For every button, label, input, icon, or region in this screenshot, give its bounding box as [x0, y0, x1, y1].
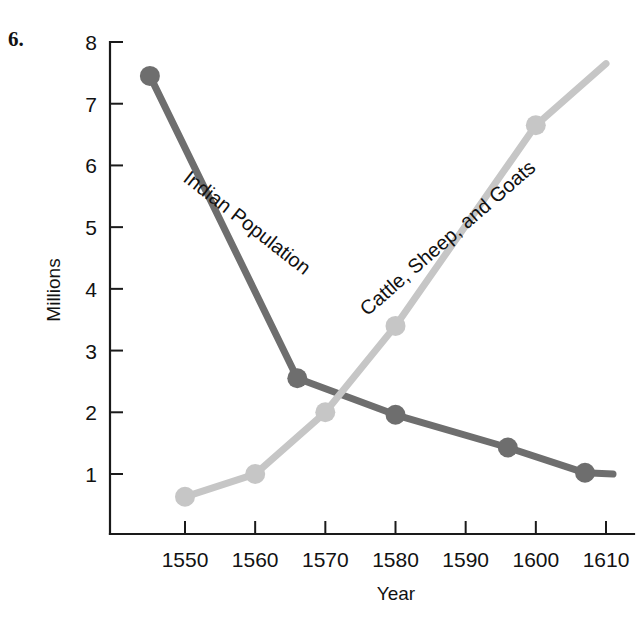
y-axis-tick-labels: 12345678 — [85, 31, 97, 486]
y-tick-label: 7 — [85, 93, 97, 116]
y-tick-label: 4 — [85, 278, 97, 301]
x-axis-title: Year — [377, 583, 416, 604]
data-point-marker — [140, 66, 160, 86]
x-tick-label: 1550 — [162, 548, 209, 571]
line-chart: 12345678 1550156015701580159016001610 Mi… — [0, 0, 644, 619]
y-axis-ticks — [110, 42, 123, 474]
y-tick-label: 3 — [85, 340, 97, 363]
data-point-marker — [287, 368, 307, 388]
data-point-marker — [175, 487, 195, 507]
figure-container: 6. 12345678 1550156015701580159016001610… — [0, 0, 644, 619]
data-point-marker — [575, 463, 595, 483]
y-tick-label: 5 — [85, 216, 97, 239]
y-tick-label: 1 — [85, 463, 97, 486]
data-point-marker — [245, 464, 265, 484]
y-axis-title: Millions — [43, 258, 64, 321]
series-label-cattle-sheep-goats: Cattle, Sheep, and Goats — [355, 156, 539, 320]
y-tick-label: 8 — [85, 31, 97, 54]
series-label-indian-population: Indian Population — [180, 166, 315, 279]
x-tick-label: 1580 — [372, 548, 419, 571]
x-axis-tick-labels: 1550156015701580159016001610 — [162, 548, 630, 571]
data-point-marker — [526, 115, 546, 135]
data-point-marker — [386, 316, 406, 336]
x-tick-label: 1590 — [442, 548, 489, 571]
data-point-marker — [315, 402, 335, 422]
series-line-0 — [150, 76, 613, 474]
x-axis-ticks — [185, 521, 606, 534]
data-point-marker — [498, 438, 518, 458]
x-tick-label: 1560 — [232, 548, 279, 571]
y-tick-label: 2 — [85, 401, 97, 424]
data-point-marker — [386, 405, 406, 425]
x-tick-label: 1610 — [583, 548, 630, 571]
x-tick-label: 1570 — [302, 548, 349, 571]
x-tick-label: 1600 — [512, 548, 559, 571]
y-tick-label: 6 — [85, 154, 97, 177]
